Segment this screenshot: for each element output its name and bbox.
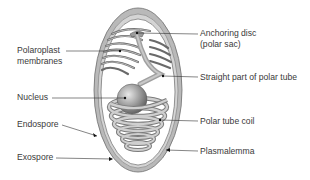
label-polar-tube-coil: Polar tube coil (200, 116, 254, 127)
label-straight-polar-tube: Straight part of polar tube (200, 72, 297, 83)
label-polaroplast-line1: Polaroplast (17, 45, 62, 56)
label-exospore: Exospore (17, 152, 53, 163)
label-anchoring-line1: Anchoring disc (200, 28, 256, 39)
label-endospore: Endospore (17, 119, 59, 130)
label-anchoring-disc: Anchoring disc (polar sac) (200, 28, 256, 50)
label-anchoring-line2: (polar sac) (200, 39, 256, 50)
label-nucleus: Nucleus (17, 92, 48, 103)
label-polaroplast-line2: membranes (17, 56, 62, 67)
label-polaroplast-membranes: Polaroplast membranes (17, 45, 62, 67)
label-plasmalemma: Plasmalemma (200, 146, 254, 157)
